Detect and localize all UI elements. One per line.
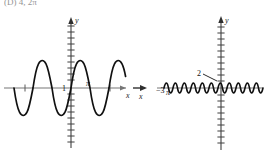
right-label-two-leader-line (203, 74, 217, 81)
left-x-axis-label: x (125, 91, 130, 100)
right-graph-svg: x (133, 0, 265, 162)
right-x-axis-label: x (138, 92, 143, 101)
left-y-axis-label: y (74, 16, 79, 25)
right-label-two: 2 (197, 69, 201, 78)
right-graph-panel: (A) π/2 x (133, 0, 265, 162)
left-label-one: 1 (62, 84, 66, 93)
figure-container: (D) 4, 2π (0, 0, 265, 162)
right-y-axis-label: y (224, 16, 229, 25)
left-graph-panel: (D) 4, 2π (0, 0, 132, 162)
right-label-neg-three: −3 (156, 86, 165, 95)
right-x-axis-left-arrow (133, 85, 147, 91)
left-graph-svg: 1 π y x (0, 0, 132, 162)
